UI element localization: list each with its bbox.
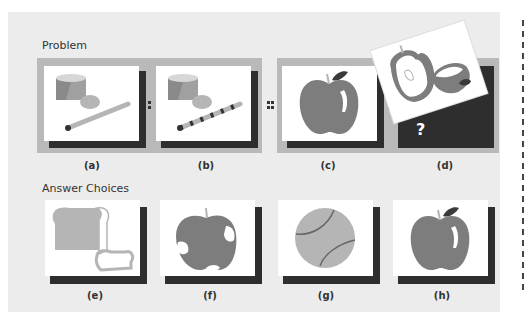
label-b: (b) bbox=[186, 160, 226, 171]
label-g: (g) bbox=[306, 290, 346, 301]
label-c: (c) bbox=[308, 160, 348, 171]
drum-with-striped-stick-icon bbox=[156, 66, 251, 141]
bruised-apple-icon bbox=[160, 200, 255, 276]
label-a: (a) bbox=[72, 160, 112, 171]
answer-card-g[interactable] bbox=[278, 200, 380, 284]
whole-apple-icon bbox=[282, 66, 377, 141]
label-e: (e) bbox=[75, 290, 115, 301]
problem-card-c[interactable] bbox=[282, 66, 384, 148]
problem-card-b[interactable] bbox=[156, 66, 258, 148]
problem-heading: Problem bbox=[42, 39, 87, 52]
answer-card-f[interactable] bbox=[160, 200, 262, 284]
label-f: (f) bbox=[190, 290, 230, 301]
unknown-answer-placeholder: ? bbox=[416, 120, 425, 139]
label-d: (d) bbox=[425, 160, 465, 171]
bread-loaf-icon bbox=[45, 200, 140, 276]
drum-with-plain-stick-icon bbox=[44, 66, 139, 141]
whole-apple-icon bbox=[393, 200, 488, 276]
label-h: (h) bbox=[422, 290, 462, 301]
answer-choices-heading: Answer Choices bbox=[42, 182, 129, 195]
answer-card-e[interactable] bbox=[45, 200, 147, 284]
answer-card-h[interactable] bbox=[393, 200, 495, 284]
cropped-text-column bbox=[522, 20, 530, 320]
tennis-ball-icon bbox=[278, 200, 373, 276]
problem-card-a[interactable] bbox=[44, 66, 146, 148]
